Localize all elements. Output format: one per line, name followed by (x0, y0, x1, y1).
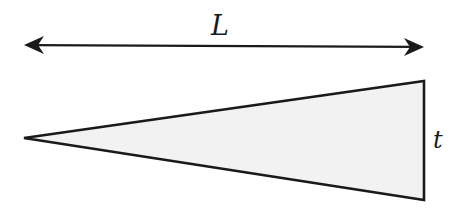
dimension-line (34, 45, 414, 47)
length-label: L (211, 12, 229, 39)
thickness-label: t (433, 128, 443, 152)
wedge-shape (24, 81, 424, 200)
